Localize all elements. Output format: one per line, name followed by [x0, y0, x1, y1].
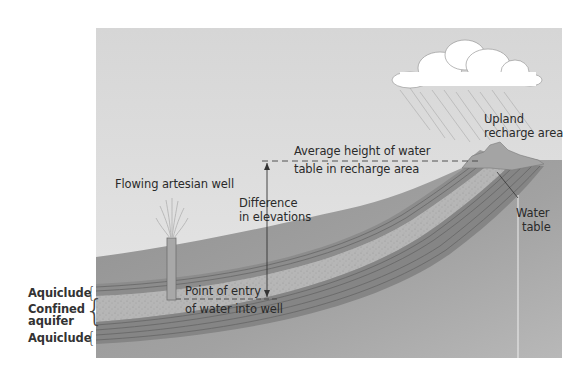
entry-label-1: Point of entry — [185, 284, 261, 299]
aquiclude-top-label: Aquiclude — [28, 286, 91, 301]
confined-aquifer-label-2: aquifer — [28, 314, 74, 329]
water-table-label-1: Water — [516, 206, 550, 221]
upland-label-1: Upland — [484, 112, 524, 127]
upland-label-2: recharge area — [484, 126, 563, 141]
avg-height-label-1: Average height of water — [294, 144, 430, 159]
water-table-label-2: table — [522, 220, 551, 235]
aquiclude-bottom-label: Aquiclude — [28, 331, 91, 346]
difference-label-1: Difference — [239, 196, 297, 211]
well-pipe — [167, 238, 176, 300]
brace-aquiclude-bottom: { — [86, 328, 96, 347]
difference-label-2: in elevations — [239, 210, 311, 225]
brace-aquifer: { — [85, 296, 104, 326]
flowing-well-label: Flowing artesian well — [115, 177, 234, 192]
entry-label-2: of water into well — [185, 302, 283, 317]
avg-height-label-2: table in recharge area — [294, 162, 419, 177]
